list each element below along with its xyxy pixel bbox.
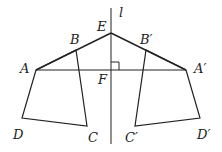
label-B: B xyxy=(69,32,80,47)
label-C-prime: C′ xyxy=(125,130,138,145)
label-C: C xyxy=(88,130,98,145)
reflection-diagram: l E F A B C D A′ B′ C′ D′ xyxy=(0,0,222,152)
label-A: A xyxy=(19,61,29,76)
label-A-prime: A′ xyxy=(193,61,206,76)
label-D-prime: D′ xyxy=(196,127,210,142)
quadrilateral-A-prime-B-prime-C-prime-D-prime xyxy=(135,50,200,126)
label-E: E xyxy=(96,19,107,34)
right-angle-marker xyxy=(111,62,119,70)
label-D: D xyxy=(12,127,24,142)
quadrilateral-ABCD xyxy=(22,50,87,126)
label-B-prime: B′ xyxy=(139,32,153,47)
label-l: l xyxy=(119,5,123,20)
label-F: F xyxy=(97,72,108,87)
